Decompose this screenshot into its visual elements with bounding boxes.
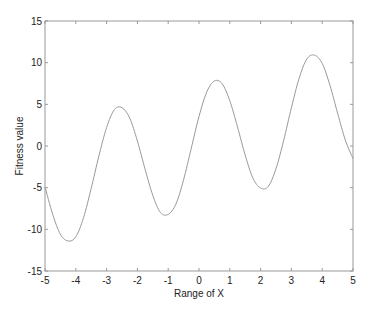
y-tick-label: 15 <box>31 16 43 27</box>
y-tick-label: -10 <box>28 224 43 235</box>
y-tick-labels: -15-10-5051015 <box>28 16 43 277</box>
x-axis-label: Range of X <box>174 288 224 299</box>
x-tick-label: 3 <box>289 275 295 286</box>
x-tick-label: 4 <box>319 275 325 286</box>
x-tick-label: -3 <box>102 275 111 286</box>
x-tick-label: 0 <box>196 275 202 286</box>
fitness-line-chart: -5-4-3-2-1012345 -15-10-5051015 Range of… <box>0 0 372 311</box>
x-tick-label: -5 <box>41 275 50 286</box>
x-tick-label: 1 <box>227 275 233 286</box>
x-tick-label: 2 <box>258 275 264 286</box>
y-tick-label: 5 <box>36 99 42 110</box>
y-axis-label: Fitness value <box>14 116 25 175</box>
x-tick-label: -4 <box>71 275 80 286</box>
y-tick-label: -15 <box>28 266 43 277</box>
y-tick-label: 0 <box>36 141 42 152</box>
x-tick-label: -2 <box>133 275 142 286</box>
y-tick-label: 10 <box>31 57 43 68</box>
x-tick-label: 5 <box>350 275 356 286</box>
x-tick-label: -1 <box>164 275 173 286</box>
x-tick-labels: -5-4-3-2-1012345 <box>41 275 357 286</box>
y-tick-label: -5 <box>33 182 42 193</box>
